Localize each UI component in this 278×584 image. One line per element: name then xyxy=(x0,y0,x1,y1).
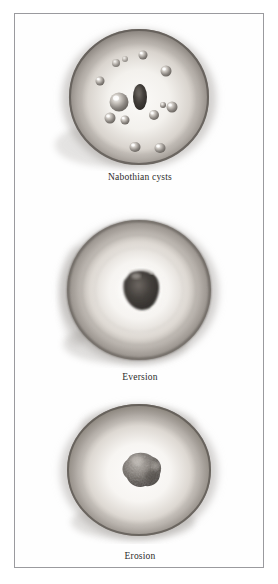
panel-nabothian-cysts: Nabothian cysts xyxy=(15,19,265,207)
cervix-drawing-erosion xyxy=(15,396,265,544)
cyst-highlight xyxy=(131,144,135,147)
nabothian-cyst xyxy=(155,143,166,153)
nabothian-cyst xyxy=(161,66,172,77)
panel-eversion: Eversion xyxy=(15,210,265,396)
nabothian-cyst xyxy=(167,102,178,113)
erosion-highlight xyxy=(131,456,143,465)
cyst-highlight xyxy=(162,67,166,70)
cervix-drawing-nabothian xyxy=(15,19,265,171)
panel-erosion: Erosion xyxy=(15,396,265,566)
panel-caption-erosion: Erosion xyxy=(15,551,265,561)
nabothian-cyst xyxy=(96,77,105,86)
external-os-highlight xyxy=(131,273,141,279)
illustration-erosion xyxy=(15,396,265,544)
cyst-highlight xyxy=(140,52,143,55)
erosion-edge-highlight xyxy=(152,462,160,470)
erosion-deep-shadow xyxy=(145,470,157,482)
illustration-plate: Nabothian cysts xyxy=(0,0,278,584)
cyst-highlight xyxy=(150,112,153,115)
external-os-highlight xyxy=(135,86,141,96)
cyst-highlight xyxy=(168,103,172,106)
nabothian-cyst xyxy=(112,59,120,67)
cyst-highlight xyxy=(97,78,100,81)
panel-caption-eversion: Eversion xyxy=(15,372,265,382)
nabothian-cyst xyxy=(121,116,130,125)
nabothian-cyst xyxy=(110,93,129,112)
nabothian-cyst xyxy=(105,113,116,124)
cyst-highlight xyxy=(106,114,110,117)
panel-caption-nabothian-cysts: Nabothian cysts xyxy=(15,172,265,182)
nabothian-cyst xyxy=(149,110,159,120)
plate-frame: Nabothian cysts xyxy=(14,13,264,568)
nabothian-cyst xyxy=(160,102,166,108)
cervix-drawing-eversion xyxy=(15,210,265,370)
cyst-highlight xyxy=(122,117,125,120)
cyst-highlight xyxy=(156,145,160,148)
illustration-eversion xyxy=(15,210,265,370)
illustration-nabothian-cysts xyxy=(15,19,265,171)
nabothian-cyst xyxy=(130,142,141,152)
nabothian-cyst xyxy=(139,51,148,60)
nabothian-cyst xyxy=(122,56,128,62)
cyst-highlight xyxy=(113,95,119,100)
